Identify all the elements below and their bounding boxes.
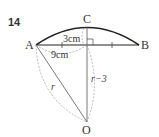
label-r-minus-3: r−3: [91, 73, 107, 84]
label-o: O: [82, 123, 91, 137]
label-a: A: [25, 38, 34, 52]
label-9cm: 9cm: [51, 49, 68, 60]
label-b: B: [141, 38, 149, 52]
problem-number: 14: [8, 16, 21, 28]
label-3cm: 3cm: [63, 33, 80, 44]
geometry-diagram: 14 A B C O 3cm 9cm r r−3: [0, 0, 159, 137]
label-c: C: [83, 12, 91, 26]
label-r: r: [51, 81, 55, 92]
right-angle-marker: [87, 39, 93, 45]
dim-3cm: [82, 28, 84, 45]
arc-acb: [36, 28, 139, 46]
